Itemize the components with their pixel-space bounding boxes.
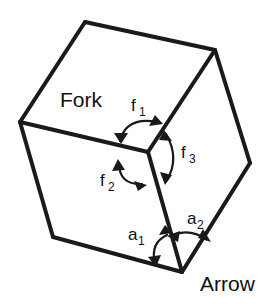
a2-label-base: a bbox=[187, 209, 197, 228]
a1-label-subscript: 1 bbox=[138, 234, 145, 248]
f1-arrowhead-start bbox=[114, 133, 128, 144]
edge-upper-right-to-right bbox=[215, 50, 250, 163]
arrow-label: Arrow bbox=[200, 272, 256, 295]
edge-top-to-upper-right bbox=[85, 22, 215, 50]
f2-label-base: f bbox=[100, 171, 105, 190]
f3-label-subscript: 3 bbox=[189, 152, 196, 166]
fork-label: Fork bbox=[60, 88, 103, 111]
a1-label-base: a bbox=[128, 225, 138, 244]
angle-arc-f3 bbox=[159, 130, 173, 185]
f1-label-subscript: 1 bbox=[139, 105, 146, 119]
angle-arc-a1 bbox=[148, 225, 172, 267]
a2-label-subscript: 2 bbox=[197, 218, 204, 232]
edge-left-to-bottom-left bbox=[20, 122, 53, 237]
f3-label-base: f bbox=[181, 143, 186, 162]
angle-arc-f2 bbox=[112, 159, 147, 191]
figure-container: Fork Arrow f 1 f 2 f 3 a 1 a 2 bbox=[0, 0, 278, 305]
edge-bottom-left-to-bottom bbox=[53, 237, 182, 272]
f3-arc-path bbox=[166, 134, 173, 180]
edge-upper-right-to-center bbox=[148, 50, 215, 152]
f2-arrowhead-end bbox=[134, 181, 147, 191]
f2-label-subscript: 2 bbox=[108, 180, 115, 194]
f1-label-base: f bbox=[131, 96, 136, 115]
cube-diagram-svg: Fork Arrow f 1 f 2 f 3 a 1 a 2 bbox=[0, 0, 278, 305]
f2-arrowhead-start bbox=[112, 159, 125, 171]
